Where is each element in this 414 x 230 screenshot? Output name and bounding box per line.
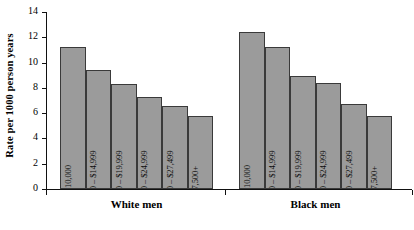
y-axis-tick-label: 0 (33, 182, 38, 193)
bar[interactable]: $27,500+ (188, 116, 214, 189)
bar[interactable]: $20,000 – $24,999 (316, 83, 342, 189)
bar-category-label: $27,500+ (369, 166, 379, 189)
y-axis-tick-label: 6 (33, 106, 38, 117)
x-axis-line (46, 189, 412, 190)
group-label: Black men (239, 198, 392, 210)
y-axis-label: Rate per 1000 person years (0, 0, 18, 190)
y-axis-label-text: Rate per 1000 person years (4, 33, 15, 157)
bar[interactable]: $15,000 – $19,999 (111, 84, 137, 189)
plot-area: 02468101214 < $10,000$10,000 – $14,999$1… (46, 0, 414, 190)
y-axis-tick: 12 (42, 37, 47, 38)
y-axis-tick-label: 4 (33, 131, 38, 142)
y-axis-tick: 2 (42, 164, 47, 165)
y-axis-tick: 6 (42, 113, 47, 114)
y-axis-tick-label: 10 (28, 56, 38, 67)
bar[interactable]: < $10,000 (239, 32, 265, 189)
bar[interactable]: $10,000 – $14,999 (265, 47, 291, 189)
bar[interactable]: $10,000 – $14,999 (86, 70, 112, 189)
bar-category-label: $15,000 – $19,999 (293, 151, 303, 189)
bar-category-label: $20,000 – $24,999 (318, 151, 328, 189)
bar-category-label: $25,000 – $27,499 (165, 151, 175, 189)
y-axis-tick: 14 (42, 12, 47, 13)
bar-category-label: $27,500+ (190, 166, 200, 189)
y-axis-tick-label: 2 (33, 157, 38, 168)
bar[interactable]: $27,500+ (367, 116, 393, 189)
bar-category-label: $15,000 – $19,999 (114, 151, 124, 189)
bar[interactable]: $20,000 – $24,999 (137, 97, 163, 189)
bar-chart: Rate per 1000 person years 02468101214 <… (0, 0, 414, 230)
y-axis-tick: 10 (42, 63, 47, 64)
bar-category-label: $20,000 – $24,999 (139, 151, 149, 189)
bar[interactable]: $25,000 – $27,499 (162, 106, 188, 189)
bar-category-label: $25,000 – $27,499 (344, 151, 354, 189)
y-axis-tick-label: 12 (28, 30, 38, 41)
y-axis-tick-label: 14 (28, 5, 38, 16)
bar[interactable]: < $10,000 (60, 47, 86, 189)
bar[interactable]: $25,000 – $27,499 (341, 104, 367, 189)
bar-category-label: < $10,000 (63, 165, 73, 189)
bar-category-label: < $10,000 (242, 165, 252, 189)
y-axis-tick: 8 (42, 88, 47, 89)
x-axis-tick (225, 190, 226, 195)
bar-category-label: $10,000 – $14,999 (88, 151, 98, 189)
y-axis-tick-label: 8 (33, 81, 38, 92)
x-axis-tick (46, 190, 47, 195)
x-axis-tick (412, 190, 413, 195)
bar[interactable]: $15,000 – $19,999 (290, 76, 316, 189)
group-label: White men (60, 198, 213, 210)
bar-category-label: $10,000 – $14,999 (267, 151, 277, 189)
y-axis-tick: 4 (42, 138, 47, 139)
